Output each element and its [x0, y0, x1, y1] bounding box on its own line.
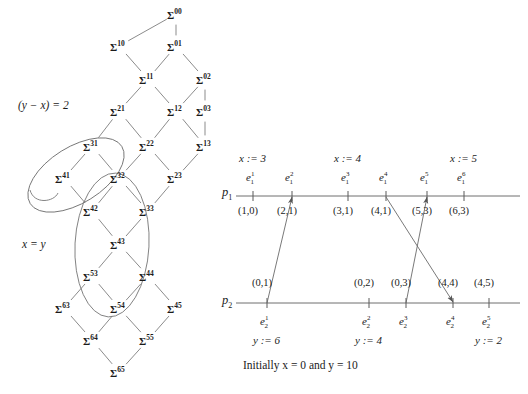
- lattice-node-index: 43: [117, 237, 125, 246]
- event-subscript: 1: [289, 178, 293, 186]
- lattice-node-index: 63: [62, 301, 70, 310]
- event-superscript: 4: [451, 314, 455, 322]
- event-superscript: 1: [251, 170, 255, 178]
- lattice-edge: [155, 154, 169, 169]
- lattice-edge: [183, 54, 197, 70]
- lattice-node-s13: Σ13: [196, 140, 211, 153]
- event-label-e1_1[interactable]: e11: [246, 171, 254, 186]
- event-subscript: 2: [264, 322, 268, 330]
- event-superscript: 2: [290, 170, 294, 178]
- figure-root: Σ00Σ10Σ01Σ11Σ02Σ21Σ12Σ03Σ31Σ22Σ13Σ41Σ32Σ…: [0, 0, 528, 394]
- lattice-node-s31: Σ31: [83, 140, 98, 153]
- event-subscript: 1: [461, 178, 465, 186]
- lattice-edge: [126, 119, 141, 137]
- vector-clock-e2_4: (4,4): [438, 278, 458, 289]
- lattice-node-index: 53: [90, 269, 98, 278]
- lattice-node-index: 10: [117, 39, 125, 48]
- process-index: 1: [228, 193, 232, 202]
- lattice-edge: [155, 316, 169, 331]
- lattice-node-s03: Σ03: [196, 105, 211, 118]
- lattice-node-index: 41: [62, 171, 70, 180]
- event-superscript: 4: [384, 170, 388, 178]
- event-subscript: 2: [450, 322, 454, 330]
- lattice-node-s10: Σ10: [110, 40, 125, 53]
- event-label-e1_5[interactable]: e51: [420, 171, 428, 186]
- vector-clock-e1_2: (2,1): [277, 206, 297, 217]
- lattice-edge: [71, 186, 85, 202]
- vector-clock-e1_1: (1,0): [238, 206, 258, 217]
- lattice-node-index: 65: [117, 365, 125, 374]
- lattice-edge: [126, 154, 140, 170]
- process-label-p1: p1: [222, 186, 232, 202]
- lattice-node-s33: Σ33: [139, 205, 154, 218]
- process-index: 2: [228, 301, 232, 310]
- lattice-node-index: 45: [174, 301, 182, 310]
- lattice-edge: [99, 252, 112, 267]
- vector-clock-e2_5: (4,5): [474, 278, 494, 289]
- lattice-node-index: 02: [203, 72, 211, 81]
- lattice-edge: [126, 252, 140, 268]
- lattice-node-index: 00: [174, 7, 182, 16]
- event-label-e1_6[interactable]: e61: [457, 171, 465, 186]
- lattice-node-s12: Σ12: [167, 105, 182, 118]
- lattice-node-index: 03: [203, 104, 211, 113]
- event-superscript: 5: [487, 314, 491, 322]
- event-label-e1_4[interactable]: e41: [379, 171, 387, 186]
- lattice-node-s63: Σ63: [55, 302, 70, 315]
- lattice-edge: [99, 120, 113, 138]
- lattice-edge: [71, 154, 85, 169]
- region-tail-curve: [30, 190, 58, 201]
- event-superscript: 1: [265, 314, 269, 322]
- lattice-edge: [129, 19, 167, 40]
- event-label-e2_2[interactable]: e22: [362, 315, 370, 330]
- lattice-edge: [99, 348, 112, 363]
- lattice-node-s54: Σ54: [110, 302, 125, 315]
- event-operation-e2_5: y := 2: [475, 335, 502, 346]
- lattice-edge: [126, 87, 140, 103]
- lattice-edge: [99, 187, 112, 203]
- lattice-edge: [99, 316, 112, 331]
- event-operation-e2_2: y := 4: [355, 335, 382, 346]
- lattice-edge: [155, 120, 169, 138]
- lattice-edge: [155, 186, 169, 202]
- lattice-node-index: 31: [90, 139, 98, 148]
- event-label-e2_4[interactable]: e42: [446, 315, 454, 330]
- lattice-node-s00: Σ00: [167, 8, 182, 21]
- event-label-e2_1[interactable]: e12: [260, 315, 268, 330]
- vector-clock-e1_4: (4,1): [371, 206, 391, 217]
- lattice-edge: [99, 284, 112, 299]
- lattice-node-s02: Σ02: [196, 73, 211, 86]
- lattice-edge: [183, 119, 198, 137]
- lattice-node-s22: Σ22: [139, 140, 154, 153]
- lattice-node-s23: Σ23: [167, 172, 182, 185]
- lattice-edge: [155, 87, 169, 102]
- event-superscript: 6: [462, 170, 466, 178]
- lattice-edge: [126, 348, 140, 364]
- event-subscript: 1: [345, 178, 349, 186]
- event-subscript: 2: [366, 322, 370, 330]
- lattice-node-index: 54: [117, 301, 125, 310]
- event-superscript: 2: [367, 314, 371, 322]
- lattice-node-s45: Σ45: [167, 302, 182, 315]
- event-label-e2_3[interactable]: e32: [399, 315, 407, 330]
- lattice-node-s65: Σ65: [110, 366, 125, 379]
- lattice-edge: [126, 219, 140, 235]
- event-superscript: 5: [425, 170, 429, 178]
- event-label-e1_3[interactable]: e31: [341, 171, 349, 186]
- lattice-edge: [155, 54, 169, 70]
- event-label-e1_2[interactable]: e21: [285, 171, 293, 186]
- event-subscript: 1: [250, 178, 254, 186]
- event-subscript: 2: [486, 322, 490, 330]
- lattice-node-index: 11: [146, 72, 153, 81]
- vector-clock-e2_1: (0,1): [252, 278, 272, 289]
- lattice-edge: [155, 284, 169, 299]
- lattice-node-s43: Σ43: [110, 238, 125, 251]
- lattice-edge: [99, 220, 112, 236]
- lattice-node-index: 32: [117, 171, 125, 180]
- lattice-edge: [126, 186, 140, 202]
- lattice-node-s53: Σ53: [83, 270, 98, 283]
- event-operation-e1_3: x := 4: [334, 153, 361, 164]
- event-label-e2_5[interactable]: e52: [482, 315, 490, 330]
- vector-clock-e1_6: (6,3): [449, 206, 469, 217]
- lattice-node-s42: Σ42: [83, 205, 98, 218]
